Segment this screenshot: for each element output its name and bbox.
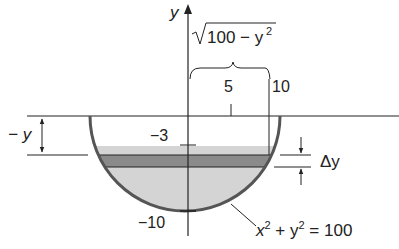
- brace-icon: [190, 62, 270, 79]
- y-axis-label: y: [169, 3, 180, 22]
- tick-label-5: 5: [224, 78, 233, 95]
- semicircle-tank-diagram: y 100 − y 2 5 10 −3 −10 − y Δy x2 + y2 =…: [0, 0, 399, 249]
- tick-label-neg3: −3: [150, 127, 168, 144]
- leader-line: [231, 204, 256, 226]
- liquid-fill: [80, 146, 290, 226]
- circle-equation: x2 + y2 = 100: [255, 219, 352, 240]
- depth-label: − y: [8, 125, 33, 144]
- diagram-canvas: y 100 − y 2 5 10 −3 −10 − y Δy x2 + y2 =…: [0, 0, 399, 249]
- sqrt-expression: 100 − y: [207, 28, 264, 47]
- delta-y-label: Δy: [320, 152, 340, 171]
- svg-text:2: 2: [266, 25, 272, 37]
- tick-label-neg10: −10: [138, 214, 165, 231]
- tick-label-10: 10: [272, 78, 290, 95]
- axis-arrow-icon: [184, 4, 192, 14]
